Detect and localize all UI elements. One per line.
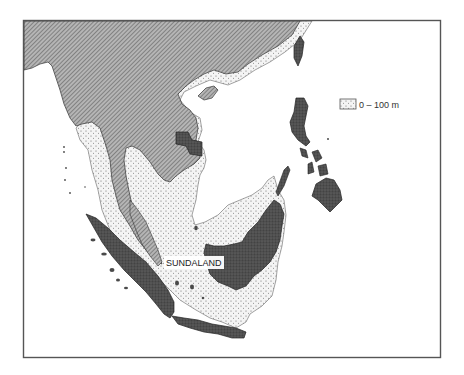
- legend-swatch-shelf: [340, 99, 356, 109]
- sundaland-label: SUNDALAND: [166, 258, 222, 268]
- legend: 0 – 100 m: [340, 99, 399, 110]
- sundaland-map: 0 – 100 m SUNDALAND: [0, 0, 464, 375]
- legend-label-shelf: 0 – 100 m: [359, 100, 399, 110]
- sundaland-label-group: SUNDALAND: [164, 256, 224, 269]
